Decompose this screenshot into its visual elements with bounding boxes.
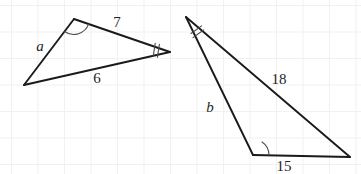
left-triangle: a 7 6 xyxy=(24,14,170,86)
right-triangle-bottom-left-angle-arc xyxy=(262,142,269,156)
right-triangle-side-b xyxy=(186,17,253,155)
geometry-figure: a 7 6 b 18 15 xyxy=(0,0,361,174)
right-triangle-side-15 xyxy=(253,155,350,157)
right-triangle-label-18: 18 xyxy=(272,71,287,87)
right-triangle-label-15: 15 xyxy=(277,158,292,174)
figure-canvas: a 7 6 b 18 15 xyxy=(0,0,361,174)
right-triangle-label-b: b xyxy=(206,99,214,115)
right-triangle-side-18 xyxy=(186,17,350,157)
left-triangle-label-7: 7 xyxy=(113,14,121,30)
left-triangle-label-6: 6 xyxy=(93,70,101,86)
right-triangle: b 18 15 xyxy=(186,17,350,174)
left-triangle-label-a: a xyxy=(36,38,44,54)
